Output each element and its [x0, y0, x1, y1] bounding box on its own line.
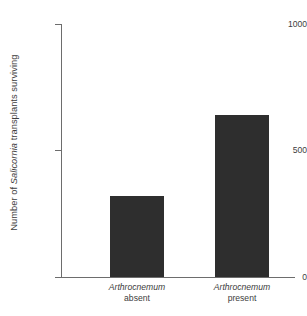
- y-axis-title-prefix: Number of: [9, 184, 19, 231]
- y-tick-mark-0: [55, 277, 62, 278]
- y-tick-mark-1000: [55, 24, 62, 25]
- y-axis-title-suffix: transplants surviving: [9, 54, 19, 142]
- x-category-label-0: Arthrocnemum absent: [82, 282, 192, 304]
- bar-arthrocnemum-absent: [110, 196, 164, 277]
- x-category-species-1: Arthrocnemum: [187, 282, 297, 293]
- bar-chart: Number of Salicornia transplants survivi…: [0, 0, 307, 316]
- bar-arthrocnemum-present: [215, 115, 269, 277]
- x-category-label-1: Arthrocnemum present: [187, 282, 297, 304]
- x-category-species-0: Arthrocnemum: [82, 282, 192, 293]
- y-axis-title-text: Number of Salicornia transplants survivi…: [10, 54, 19, 230]
- y-axis-title: Number of Salicornia transplants survivi…: [0, 0, 30, 285]
- y-axis-title-species: Salicornia: [9, 143, 19, 184]
- x-category-state-1: present: [187, 293, 297, 304]
- y-tick-label-1000: 1000: [255, 20, 307, 29]
- x-category-state-0: absent: [82, 293, 192, 304]
- y-tick-mark-500: [55, 150, 62, 151]
